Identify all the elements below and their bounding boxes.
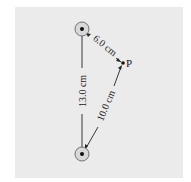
charge-top xyxy=(75,22,89,36)
distance-label-13cm: 13.0 cm xyxy=(77,75,88,107)
point-P-dot xyxy=(121,61,125,65)
charge-bottom xyxy=(75,147,89,161)
point-P-label: P xyxy=(126,57,132,69)
charge-distance-diagram: P 13.0 cm 6.0 cm 10.0 cm xyxy=(0,0,191,182)
